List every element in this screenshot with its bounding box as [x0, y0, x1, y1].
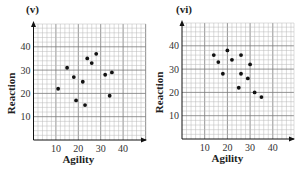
scatter-panel-vi: 1020304010203040(vi)AgilityReaction	[153, 3, 295, 164]
x-tick-label: 10	[51, 143, 61, 154]
scatter-plots: 1020304010203040(v)AgilityReaction102030…	[0, 0, 304, 170]
panel-label: (vi)	[176, 3, 192, 16]
y-tick-label: 20	[169, 87, 179, 98]
data-point	[239, 72, 243, 76]
x-tick-label: 30	[96, 143, 106, 154]
y-tick-label: 20	[21, 88, 31, 99]
data-point	[226, 49, 230, 53]
data-point	[103, 73, 107, 77]
data-point	[108, 94, 112, 98]
grid	[34, 24, 147, 140]
data-point	[74, 98, 78, 102]
x-tick-label: 40	[268, 142, 278, 153]
x-axis-title: Agility	[62, 153, 94, 165]
data-point	[90, 61, 94, 65]
y-axis-title: Reaction	[5, 73, 17, 115]
data-point	[56, 87, 60, 91]
data-point	[230, 58, 234, 62]
x-tick-label: 30	[245, 142, 255, 153]
data-point	[65, 66, 69, 70]
data-point	[72, 75, 76, 79]
data-point	[110, 71, 114, 75]
x-axis-title: Agility	[212, 152, 244, 164]
y-tick-label: 10	[169, 110, 179, 121]
data-point	[83, 103, 87, 107]
x-tick-label: 10	[200, 142, 210, 153]
data-point	[85, 57, 89, 61]
y-tick-label: 10	[21, 111, 31, 122]
y-tick-label: 40	[169, 40, 179, 51]
data-point	[253, 91, 257, 95]
data-point	[248, 63, 252, 67]
panel-label: (v)	[26, 3, 39, 16]
data-point	[216, 60, 220, 64]
data-point	[246, 77, 250, 81]
data-point	[221, 72, 225, 76]
data-point	[212, 53, 216, 57]
y-tick-label: 40	[21, 41, 31, 52]
data-point	[260, 95, 264, 99]
data-point	[237, 86, 241, 90]
grid	[182, 23, 294, 139]
data-point	[239, 53, 243, 57]
x-tick-label: 40	[118, 143, 128, 154]
scatter-panel-v: 1020304010203040(v)AgilityReaction	[5, 3, 148, 165]
data-point	[94, 52, 98, 56]
data-point	[81, 80, 85, 84]
y-axis-title: Reaction	[153, 72, 165, 114]
y-tick-label: 30	[169, 64, 179, 75]
y-tick-label: 30	[21, 65, 31, 76]
